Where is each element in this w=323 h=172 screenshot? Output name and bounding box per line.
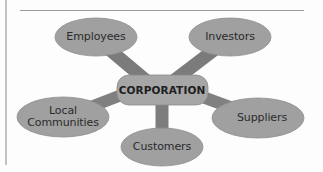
diagram-frame: Employees Investors Local Communities Su… xyxy=(0,0,323,172)
label-customers: Customers xyxy=(133,141,191,153)
label-local-communities-line2: Communities xyxy=(27,117,99,129)
label-employees: Employees xyxy=(66,31,125,43)
label-suppliers: Suppliers xyxy=(237,112,287,124)
label-investors: Investors xyxy=(205,31,255,43)
label-corporation: CORPORATION xyxy=(119,84,206,96)
